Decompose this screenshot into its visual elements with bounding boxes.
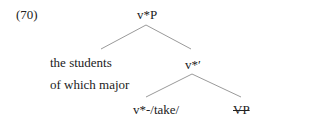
edge-root-to-specifier xyxy=(101,25,146,49)
node-vstar-bar: v*′ xyxy=(185,58,201,72)
specifier-line-1: the students xyxy=(50,56,112,70)
edge-vbar-to-head xyxy=(146,74,192,97)
specifier-line-2: of which major xyxy=(50,78,129,92)
edge-root-to-vbar xyxy=(146,25,191,49)
node-vp-deleted: VP xyxy=(233,103,250,117)
edge-vbar-to-complement xyxy=(192,74,241,97)
node-vstar-take: v*-/take/ xyxy=(133,103,179,117)
